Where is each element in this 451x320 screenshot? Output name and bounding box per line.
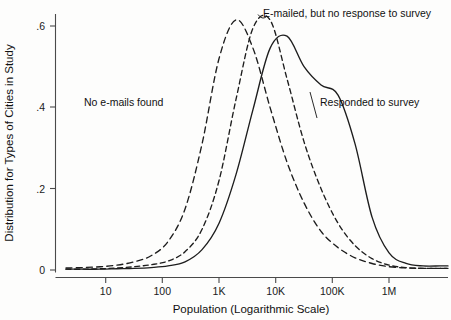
annotation-responded: Responded to survey <box>320 96 420 108</box>
x-tick-label-10: 10 <box>100 285 112 297</box>
chart-figure: 0 .2 .4 .6 10 100 1K 10K 100K 1M Populat… <box>0 0 451 320</box>
y-tick-label-2: .2 <box>36 183 45 195</box>
annotation-emailed: E-mailed, but no response to survey <box>263 7 432 19</box>
series-curve-no-emails <box>66 20 448 269</box>
x-tick-label-100: 100 <box>154 285 172 297</box>
y-tick-label-6: .6 <box>36 20 45 32</box>
y-axis-ticks <box>50 26 56 270</box>
x-tick-label-1m: 1M <box>382 285 397 297</box>
y-tick-label-0: 0 <box>39 264 45 276</box>
x-axis-ticks <box>106 278 389 284</box>
series-curve-responded <box>66 35 448 269</box>
annotation-no-emails: No e-mails found <box>84 96 164 108</box>
x-tick-label-10k: 10K <box>266 285 285 297</box>
x-tick-label-1k: 1K <box>213 285 226 297</box>
chart-plot-area: 0 .2 .4 .6 10 100 1K 10K 100K 1M Populat… <box>0 0 451 320</box>
leader-line-responded <box>310 92 317 118</box>
y-axis-title: Distribution for Types of Cities in Stud… <box>3 44 15 242</box>
y-tick-label-4: .4 <box>36 101 45 113</box>
x-tick-label-100k: 100K <box>320 285 345 297</box>
x-axis-title: Population (Logarithmic Scale) <box>173 303 330 315</box>
series-curve-emailed <box>66 15 448 269</box>
